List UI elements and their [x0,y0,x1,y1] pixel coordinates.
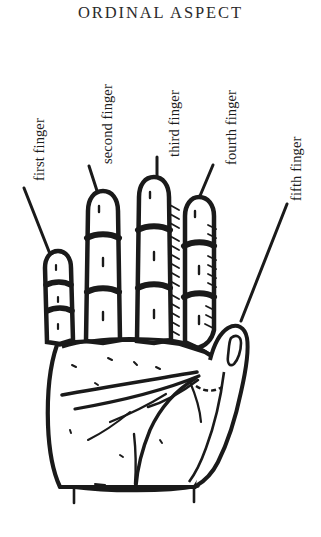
label-fourth-finger: fourth finger [223,90,240,165]
label-third-finger: third finger [166,90,183,157]
label-second-finger: second finger [99,84,116,164]
illustration-page: ORDINAL ASPECT [0,0,321,537]
leader-line-first [24,188,50,254]
label-first-finger: first finger [31,118,48,181]
wrist-dash [95,484,105,485]
leader-line-fifth [241,204,287,321]
hand-diagram [0,0,321,537]
label-fifth-finger: fifth finger [288,137,305,201]
hand-drawing [45,177,248,503]
